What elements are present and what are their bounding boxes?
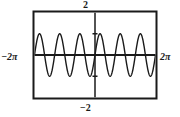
graph-figure: 2 −2 −2π 2π	[0, 0, 180, 117]
y-max-label: 2	[83, 0, 88, 10]
x-max-label: 2π	[160, 52, 170, 62]
plot-canvas	[0, 0, 180, 117]
y-min-label: −2	[80, 103, 91, 113]
x-min-label: −2π	[1, 52, 18, 62]
